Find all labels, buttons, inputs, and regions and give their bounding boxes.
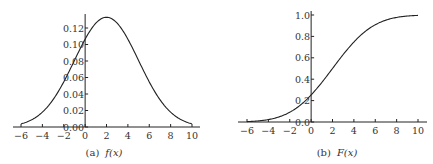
- x-tick-label: 10: [186, 130, 198, 141]
- x-tick-label: −6: [14, 130, 28, 141]
- panel-a-caption: (a)f(x): [86, 147, 123, 158]
- y-tick-label: 0.2: [295, 95, 310, 106]
- y-tick-label: 0.0: [295, 117, 310, 128]
- x-tick-label: 2: [329, 125, 335, 136]
- y-tick-label: 0.00: [63, 122, 84, 133]
- x-tick-label: −6: [240, 125, 254, 136]
- panel-b-cdf-curve: [247, 15, 418, 121]
- x-tick-label: 4: [125, 130, 131, 141]
- x-tick-label: −4: [261, 125, 275, 136]
- y-tick-label: 0.10: [63, 39, 84, 50]
- panel-a-density-chart: −6−4−20246810 0.000.020.040.060.080.100.…: [13, 14, 200, 158]
- x-tick-label: 10: [412, 125, 424, 136]
- panel-a-axes: [13, 14, 200, 127]
- panel-a-density-curve: [21, 17, 192, 124]
- figure: −6−4−20246810 0.000.020.040.060.080.100.…: [0, 0, 433, 164]
- x-tick-label: 8: [394, 125, 400, 136]
- panel-a-y-ticks: 0.000.020.040.060.080.100.12: [63, 23, 88, 133]
- y-tick-label: 0.04: [63, 89, 84, 100]
- x-tick-label: 4: [351, 125, 357, 136]
- y-tick-label: 0.08: [63, 56, 84, 67]
- x-tick-label: 6: [146, 130, 152, 141]
- x-tick-label: 8: [168, 130, 174, 141]
- y-tick-label: 0.4: [295, 74, 310, 85]
- x-tick-label: 6: [372, 125, 378, 136]
- y-tick-label: 0.02: [63, 105, 84, 116]
- y-tick-label: 1.0: [295, 10, 310, 21]
- panel-b-cdf-chart: −6−4−20246810 0.00.20.40.60.81.0 (b)F(x): [238, 10, 427, 159]
- y-tick-label: 0.8: [295, 31, 310, 42]
- panel-b-axes: [238, 11, 427, 122]
- y-tick-label: 0.6: [295, 52, 310, 63]
- y-tick-label: 0.06: [63, 72, 84, 83]
- x-tick-label: 2: [103, 130, 109, 141]
- x-tick-label: −4: [35, 130, 49, 141]
- panel-b-caption: (b)F(x): [317, 147, 358, 158]
- y-tick-label: 0.12: [63, 23, 84, 34]
